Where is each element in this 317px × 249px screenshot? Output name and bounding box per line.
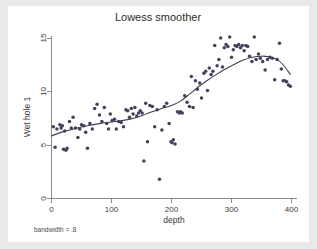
y-axis-title: Wet hole 1 xyxy=(22,96,32,137)
y-tick-label: 15 xyxy=(39,33,48,42)
data-point xyxy=(211,69,215,73)
data-point xyxy=(237,43,241,47)
data-point xyxy=(65,146,69,150)
data-point xyxy=(61,124,65,128)
data-point xyxy=(84,130,88,134)
data-point xyxy=(133,106,137,110)
lowess-scatter-plot: Lowess smoother 051015 0100200300400 Wet… xyxy=(0,0,317,249)
data-point xyxy=(52,125,56,129)
data-point xyxy=(273,78,277,82)
data-point xyxy=(103,106,107,110)
data-point xyxy=(109,112,113,116)
data-point xyxy=(131,112,135,116)
chart-title: Lowess smoother xyxy=(115,11,202,23)
data-point xyxy=(71,115,75,119)
data-point xyxy=(289,84,293,88)
data-point xyxy=(232,48,236,52)
data-point xyxy=(242,49,246,53)
x-axis-ticks: 0100200300400 xyxy=(49,199,298,215)
data-point xyxy=(107,127,111,131)
data-point xyxy=(188,105,192,109)
data-point xyxy=(140,111,144,115)
bandwidth-note: bandwidth = .8 xyxy=(34,226,77,233)
data-point xyxy=(158,177,162,181)
data-point xyxy=(167,122,171,126)
data-point xyxy=(190,75,194,79)
data-point xyxy=(146,140,150,144)
data-point xyxy=(185,100,189,104)
data-point xyxy=(223,46,227,50)
data-point xyxy=(115,127,119,131)
data-point xyxy=(246,45,250,49)
data-point xyxy=(250,60,254,64)
data-point xyxy=(228,35,232,39)
data-point xyxy=(253,35,256,39)
data-point xyxy=(142,159,146,163)
data-point xyxy=(172,138,176,142)
data-point xyxy=(259,57,263,61)
data-point xyxy=(263,68,267,72)
data-point xyxy=(206,89,210,93)
x-axis-title: depth xyxy=(163,215,185,225)
data-point xyxy=(91,127,95,131)
data-point xyxy=(144,102,148,106)
data-point xyxy=(126,109,130,113)
data-point xyxy=(76,136,80,140)
data-point xyxy=(278,42,282,46)
lowess-curve xyxy=(52,56,291,136)
data-point xyxy=(198,81,202,85)
data-point xyxy=(217,58,221,62)
data-point xyxy=(53,145,57,149)
data-point xyxy=(130,107,134,111)
data-point xyxy=(241,44,245,48)
data-point xyxy=(226,45,230,49)
data-point xyxy=(209,73,213,77)
y-axis-ticks: 051015 xyxy=(39,33,52,201)
x-tick-label: 100 xyxy=(105,205,119,214)
data-point xyxy=(215,64,219,68)
data-point xyxy=(113,118,117,122)
data-point xyxy=(208,66,212,70)
x-tick-label: 400 xyxy=(285,205,299,214)
data-point xyxy=(219,36,223,40)
data-point xyxy=(254,58,258,62)
data-point xyxy=(151,105,155,109)
x-tick-label: 200 xyxy=(165,205,179,214)
data-point xyxy=(95,103,99,107)
data-point xyxy=(221,65,225,69)
data-point xyxy=(165,102,169,106)
data-point xyxy=(160,128,164,132)
data-point xyxy=(200,96,204,100)
y-tick-label: 5 xyxy=(39,142,48,147)
data-point xyxy=(204,69,208,73)
data-point xyxy=(261,60,265,64)
data-point xyxy=(153,125,157,129)
data-point xyxy=(191,106,195,110)
data-point xyxy=(98,113,102,117)
y-tick-label: 10 xyxy=(39,87,48,96)
data-point xyxy=(181,111,185,115)
chart-figure: Lowess smoother 051015 0100200300400 Wet… xyxy=(0,0,317,249)
data-point xyxy=(285,80,289,84)
data-point xyxy=(93,107,97,111)
data-point xyxy=(230,56,234,60)
data-point xyxy=(68,120,72,124)
data-point xyxy=(55,127,59,131)
data-point xyxy=(213,44,217,48)
y-tick-label: 0 xyxy=(39,196,48,201)
data-point xyxy=(194,79,198,83)
data-point xyxy=(122,125,126,129)
data-point xyxy=(173,142,177,146)
data-point xyxy=(257,52,261,56)
x-tick-label: 0 xyxy=(49,205,54,214)
data-point xyxy=(280,67,284,71)
data-point xyxy=(170,141,174,145)
x-tick-label: 300 xyxy=(225,205,239,214)
data-point xyxy=(86,146,90,150)
